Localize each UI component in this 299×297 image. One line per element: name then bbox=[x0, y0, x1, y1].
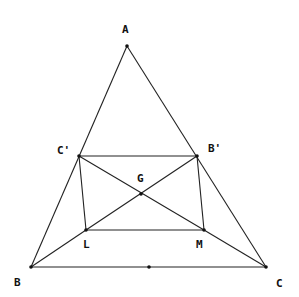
point-bp bbox=[195, 154, 199, 158]
diagram-svg: ABCC'B'GLM bbox=[0, 0, 299, 297]
segment-m-c bbox=[204, 230, 266, 267]
segment-cp-l bbox=[79, 156, 86, 230]
point-a bbox=[125, 44, 129, 48]
point-c bbox=[264, 265, 268, 269]
point-b bbox=[29, 265, 33, 269]
label-m: M bbox=[196, 238, 203, 251]
point-l bbox=[84, 228, 88, 232]
point-mid bbox=[147, 265, 151, 269]
point-g bbox=[139, 192, 143, 196]
label-cp: C' bbox=[57, 144, 70, 157]
label-g: G bbox=[137, 172, 144, 185]
label-c: C bbox=[276, 277, 283, 290]
geometry-diagram: ABCC'B'GLM bbox=[0, 0, 299, 297]
label-bp: B' bbox=[208, 142, 221, 155]
point-m bbox=[202, 228, 206, 232]
label-a: A bbox=[122, 23, 129, 36]
point-cp bbox=[77, 154, 81, 158]
label-l: L bbox=[83, 238, 90, 251]
label-b: B bbox=[14, 276, 21, 289]
